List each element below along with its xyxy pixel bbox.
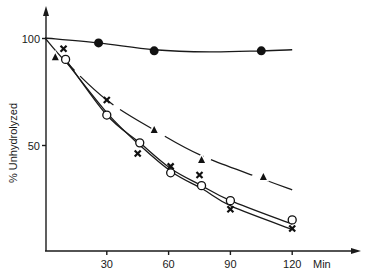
cross-point (104, 97, 110, 103)
y-axis-label: % Unhydrolyzed (7, 103, 19, 183)
x-tick-label: 30 (101, 258, 113, 270)
open-circle-curve (66, 59, 293, 224)
cross-point (135, 151, 141, 157)
axes (43, 6, 361, 254)
open-circle-point (226, 197, 234, 205)
open-circle-point (62, 55, 70, 63)
filled-circle-point (150, 46, 159, 55)
open-circle-point (198, 182, 206, 190)
x-tick-label: 60 (162, 258, 174, 270)
open-circle-point (103, 111, 111, 119)
open-circle-point (167, 169, 175, 177)
x-tick-label: 120 (283, 258, 301, 270)
filled-circle-point (94, 38, 103, 47)
cross-point (197, 172, 203, 178)
filled-circle-point (257, 46, 266, 55)
filled-circle-curve (45, 38, 292, 52)
curves (45, 38, 294, 230)
cross-point (227, 206, 233, 212)
y-tick-label: 100 (22, 33, 40, 45)
y-tick-label: 50 (28, 140, 40, 152)
open-circle-point (136, 139, 144, 147)
cross-point (61, 46, 67, 52)
chart: 30609012050100 Min % Unhydrolyzed (0, 0, 379, 273)
x-axis-label: Min (313, 258, 331, 270)
x-axis-arrow (351, 248, 361, 254)
markers (52, 38, 296, 231)
cross-curve (67, 63, 294, 230)
y-axis-arrow (43, 6, 49, 16)
x-tick-label: 90 (224, 258, 236, 270)
open-circle-point (288, 216, 296, 224)
ticks: 30609012050100 (22, 33, 302, 271)
